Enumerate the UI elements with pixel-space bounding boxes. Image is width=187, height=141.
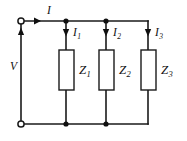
label-impedance-z1-sub: 1 [87,69,91,79]
current-arrow-i1 [63,29,69,37]
terminal-top-circle [18,18,24,24]
label-branch-current-i2-sub: 2 [117,32,121,41]
label-total-current-i: I [47,5,51,17]
label-branch-current-i2: I2 [113,27,121,39]
label-impedance-z2-sub: 2 [127,69,131,79]
label-impedance-z2: Z2 [119,63,130,76]
label-impedance-z3: Z3 [161,63,172,76]
impedance-box-z3 [141,50,156,90]
label-branch-current-i3: I3 [155,27,163,39]
label-impedance-z2-text: Z [119,62,126,77]
junction-dot-bottom-1 [63,121,68,126]
label-impedance-z1: Z1 [79,63,90,76]
junction-dot-bottom-2 [103,121,108,126]
label-total-current-i-text: I [47,4,51,16]
label-impedance-z3-sub: 3 [169,69,173,79]
label-source-voltage-v-text: V [10,60,17,72]
label-branch-current-i1-sub: 1 [77,32,81,41]
impedance-box-z1 [59,50,74,90]
junction-dot-top-2 [103,18,108,23]
junction-dot-top-1 [63,18,68,23]
label-branch-current-i1: I1 [73,27,81,39]
impedance-box-z2 [99,50,114,90]
label-impedance-z3-text: Z [161,62,168,77]
label-branch-current-i3-sub: 3 [159,32,163,41]
circuit-diagram-figure: I V I1 I2 I3 Z1 Z2 Z3 [0,0,187,141]
current-arrow-i3 [145,29,151,37]
circuit-schematic-svg [0,0,187,141]
current-arrow-total-i [34,18,41,25]
voltage-arrow-v [18,28,24,36]
label-source-voltage-v: V [10,61,17,73]
label-impedance-z1-text: Z [79,62,86,77]
current-arrow-i2 [103,29,109,37]
terminal-bottom-circle [18,121,24,127]
